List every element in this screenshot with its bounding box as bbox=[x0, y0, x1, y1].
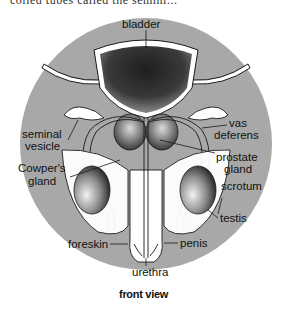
label-seminal-vesicle-line2: vesicle bbox=[25, 140, 60, 152]
label-penis: penis bbox=[180, 237, 208, 249]
label-cowpers-gland-line2: gland bbox=[28, 175, 56, 187]
label-urethra: urethra bbox=[132, 266, 168, 278]
label-scrotum: scrotum bbox=[221, 180, 262, 192]
label-cowpers-gland-line1: Cowper's bbox=[18, 162, 66, 174]
label-prostate-gland-line1: prostate bbox=[216, 151, 258, 163]
label-testis: testis bbox=[220, 212, 247, 224]
label-seminal-vesicle-line1: seminal bbox=[22, 128, 62, 140]
label-vas-deferens-line2: deferens bbox=[214, 129, 259, 141]
label-prostate-gland-line2: gland bbox=[224, 163, 252, 175]
caption-front-view: front view bbox=[0, 288, 287, 300]
label-foreskin: foreskin bbox=[68, 238, 108, 250]
label-bladder: bladder bbox=[122, 18, 160, 30]
label-vas-deferens-line1: vas bbox=[229, 117, 247, 129]
